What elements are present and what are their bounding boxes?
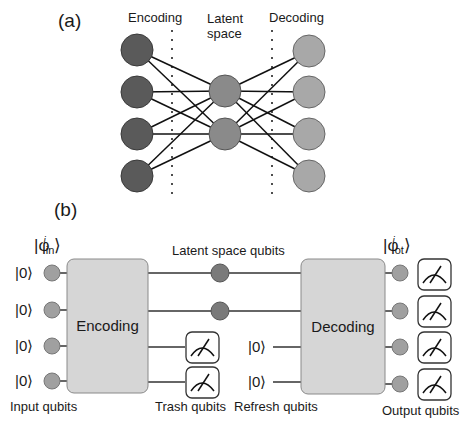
trash-meter-icon bbox=[186, 367, 219, 398]
input-qubits-label: Input qubits bbox=[10, 400, 77, 414]
latent-node bbox=[209, 118, 241, 150]
output-node bbox=[293, 160, 325, 192]
input-ket: |0⟩ bbox=[15, 373, 33, 389]
ket-close: ⟩ bbox=[404, 236, 411, 255]
latent-header-line2: space bbox=[207, 27, 242, 41]
encoding-header: Encoding bbox=[128, 11, 182, 25]
decoding-header: Decoding bbox=[269, 11, 324, 25]
output-meter-icon bbox=[418, 259, 451, 290]
trash-qubits-label: Trash qubits bbox=[155, 400, 226, 414]
input-ket: |0⟩ bbox=[15, 302, 33, 318]
refresh-ket: |0⟩ bbox=[248, 374, 266, 390]
output-node bbox=[293, 35, 325, 67]
input-node bbox=[121, 76, 153, 108]
panel-b-label: (b) bbox=[54, 200, 77, 220]
refresh-ket: |0⟩ bbox=[248, 339, 266, 355]
latent-qubits bbox=[211, 264, 229, 320]
input-ket: |0⟩ bbox=[15, 265, 33, 281]
input-state-label: |φiin⟩ bbox=[34, 232, 61, 259]
output-qubits bbox=[392, 265, 408, 392]
encoder-edges bbox=[137, 50, 225, 176]
input-node bbox=[121, 118, 153, 150]
output-qubits-label: Output qubits bbox=[382, 404, 459, 418]
output-meter-icon bbox=[418, 369, 451, 400]
output-state-label: |φiot⟩ bbox=[383, 232, 411, 259]
output-meter-icon bbox=[418, 296, 451, 327]
input-node bbox=[121, 160, 153, 192]
trash-meter-icon bbox=[186, 332, 219, 363]
input-node bbox=[121, 34, 153, 66]
output-node bbox=[293, 76, 325, 108]
refresh-qubits-label: Refresh qubits bbox=[234, 400, 318, 414]
decoding-block-label: Decoding bbox=[301, 319, 385, 335]
input-ket: |0⟩ bbox=[15, 338, 33, 354]
latent-qubits-label: Latent space qubits bbox=[172, 244, 285, 258]
latent-header-line1: Latent bbox=[207, 12, 243, 26]
latent-layer bbox=[209, 75, 241, 150]
input-layer bbox=[121, 34, 153, 192]
output-node bbox=[293, 118, 325, 150]
decoder-edges bbox=[225, 51, 309, 176]
output-layer bbox=[293, 35, 325, 192]
output-meter-icon bbox=[418, 332, 451, 363]
ket-close: ⟩ bbox=[54, 236, 61, 255]
phi-subscript: ot bbox=[395, 244, 404, 256]
phi-subscript: in bbox=[46, 244, 55, 256]
encoding-block-label: Encoding bbox=[67, 318, 148, 334]
latent-node bbox=[209, 75, 241, 107]
input-qubits bbox=[44, 265, 60, 389]
panel-a-label: (a) bbox=[58, 11, 81, 31]
